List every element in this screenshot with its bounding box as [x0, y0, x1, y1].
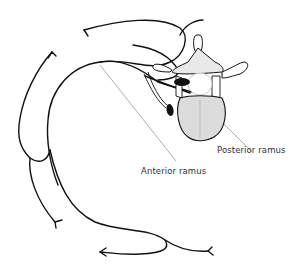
dorsal-root-ganglion [174, 78, 190, 86]
anterior-ramus-label: Anterior ramus [141, 166, 206, 176]
vertebral-body [178, 96, 226, 141]
anatomy-illustration [0, 0, 298, 270]
intercostal-nerve-paths [19, 20, 213, 256]
spinal-cord [188, 73, 212, 95]
diagram-canvas: Posterior ramus Anterior ramus [0, 0, 298, 270]
posterior-ramus-label: Posterior ramus [217, 145, 286, 155]
vertebra [144, 35, 248, 141]
